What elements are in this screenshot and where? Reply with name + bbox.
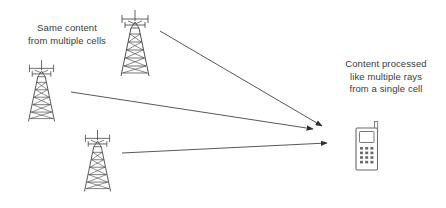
ray-from-bottom-tower bbox=[122, 143, 327, 153]
cell-tower-left bbox=[29, 60, 55, 121]
mobile-handset bbox=[356, 122, 378, 171]
caption-same-content-from-multiple-cells: Same content from multiple cells bbox=[8, 22, 126, 47]
ray-from-left-tower bbox=[71, 92, 313, 129]
cell-tower-bottom bbox=[85, 130, 111, 191]
caption-content-processed-like-multiple-rays: Content processed like multiple rays fro… bbox=[330, 58, 442, 96]
diagram-canvas: Same content from multiple cells Content… bbox=[0, 0, 446, 208]
ray-from-top-tower bbox=[160, 31, 322, 126]
